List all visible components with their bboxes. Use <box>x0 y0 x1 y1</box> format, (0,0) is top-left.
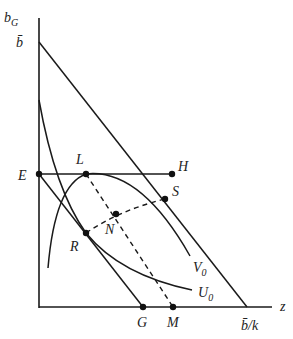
point-S <box>162 196 168 202</box>
label-H: H <box>177 159 189 174</box>
point-E <box>36 171 42 177</box>
label-N: N <box>104 222 115 237</box>
label-U0: U0 <box>198 285 213 303</box>
label-G: G <box>137 315 147 330</box>
label-V0: V0 <box>193 260 207 278</box>
label-L: L <box>75 152 84 167</box>
point-H <box>169 171 175 177</box>
label-b-bar-over-k: b̄/k <box>241 318 259 333</box>
point-G <box>140 304 146 310</box>
point-M <box>170 304 176 310</box>
label-R: R <box>69 239 79 254</box>
label-S: S <box>172 184 179 199</box>
point-N <box>113 211 119 217</box>
x-axis-label: z <box>279 299 286 314</box>
label-M: M <box>166 315 180 330</box>
curve-U0 <box>39 100 192 290</box>
point-R <box>83 230 89 236</box>
line-E-G <box>39 174 143 307</box>
dashed-line-L-M <box>86 174 173 307</box>
label-b-bar: b̄ <box>16 35 23 50</box>
y-axis-label: bG <box>4 10 18 28</box>
label-E: E <box>17 168 27 183</box>
point-L <box>83 171 89 177</box>
economics-diagram: bG b̄ E L H S N R V0 U0 G M b̄/k z <box>0 0 293 339</box>
